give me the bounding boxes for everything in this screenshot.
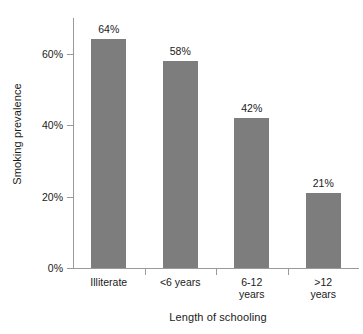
category-separator-tick — [216, 268, 217, 275]
plot-area: 0%20%40%60% 64%58%42%21% Illiterate<6 ye… — [73, 18, 359, 268]
bar — [234, 118, 269, 268]
y-tick-label: 20% — [1, 191, 63, 203]
bar — [91, 39, 126, 268]
y-axis-line — [73, 18, 74, 268]
category-label: Illiterate — [90, 277, 127, 289]
bar-value-label: 21% — [313, 177, 334, 189]
bar-value-label: 58% — [170, 45, 191, 57]
y-tick-mark — [67, 54, 73, 55]
category-label: >12 years — [310, 277, 336, 300]
y-tick-label: 0% — [1, 262, 63, 274]
bar-value-label: 64% — [98, 23, 119, 35]
y-tick-mark — [67, 197, 73, 198]
x-axis-title: Length of schooling — [73, 311, 363, 323]
y-tick-label: 60% — [1, 48, 63, 60]
category-label: <6 years — [160, 277, 201, 289]
bar — [306, 193, 341, 268]
category-separator-tick — [145, 268, 146, 275]
category-label: 6-12 years — [239, 277, 265, 300]
category-separator-tick — [288, 268, 289, 275]
bar — [163, 61, 198, 268]
y-tick-mark — [67, 268, 73, 269]
y-tick-label: 40% — [1, 119, 63, 131]
bar-chart-figure: Smoking prevalence 0%20%40%60% 64%58%42%… — [0, 0, 363, 334]
bar-value-label: 42% — [241, 102, 262, 114]
y-axis-title: Smoking prevalence — [8, 0, 26, 268]
y-tick-mark — [67, 125, 73, 126]
